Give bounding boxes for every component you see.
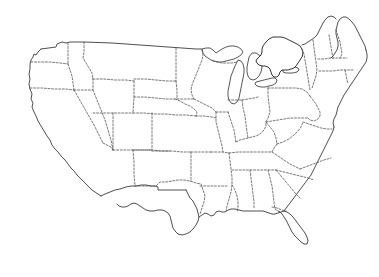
us-map-svg (0, 0, 379, 277)
map-background (0, 0, 379, 277)
capital-marker-dot (283, 57, 286, 60)
us-locator-map-figure (0, 0, 379, 277)
